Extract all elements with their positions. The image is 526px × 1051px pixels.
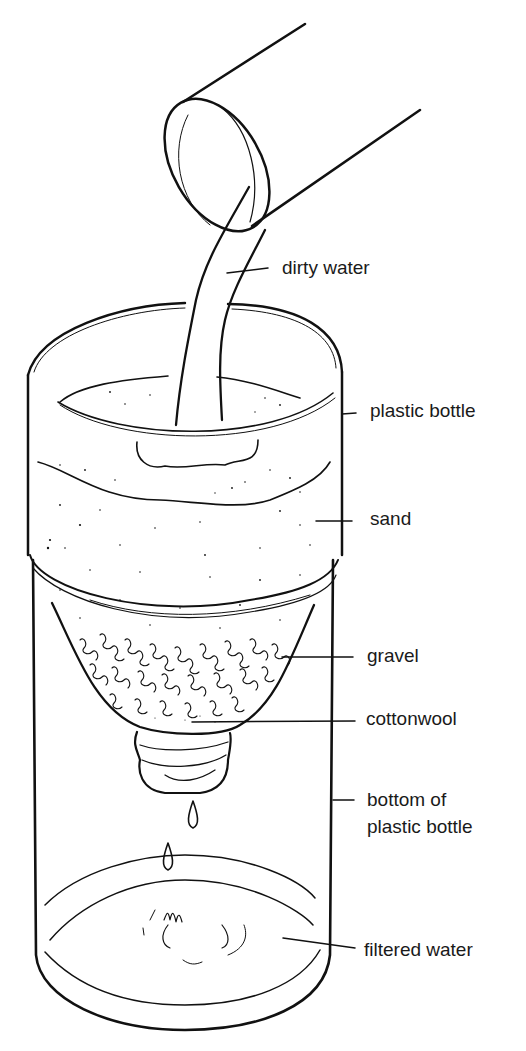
leader-dirty-water [227,268,268,273]
leader-cottonwool [192,721,355,722]
filtered-water-pool [45,855,320,1005]
filter-illustration [0,0,526,1051]
label-sand: sand [370,506,411,532]
leader-plastic-bottle [342,413,356,414]
label-bottom-of-bottle-line1: bottom of [367,787,446,813]
funnel [52,603,314,734]
water-drops [163,801,197,870]
gravel-texture [80,634,290,718]
label-cottonwool: cottonwool [366,706,457,732]
label-bottom-of-bottle-line2: plastic bottle [367,814,473,840]
upper-bottle-rim [28,303,342,436]
sand-layer [28,372,342,555]
bottle-joint [30,555,338,617]
label-dirty-water: dirty water [282,255,370,281]
pipe [143,24,420,249]
lower-bottle [33,560,333,1030]
water-filter-diagram: dirty water plastic bottle sand gravel c… [0,0,526,1051]
label-plastic-bottle: plastic bottle [370,398,476,424]
label-filtered-water: filtered water [364,937,473,963]
leader-filtered-water [283,938,355,948]
bottle-neck [135,732,231,793]
label-gravel: gravel [367,643,419,669]
